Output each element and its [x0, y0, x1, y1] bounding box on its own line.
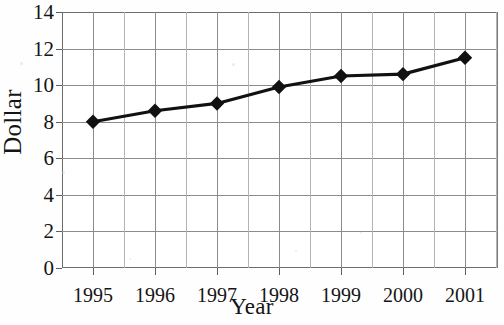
x-tick-mark	[403, 268, 404, 275]
y-tick-label: 10	[33, 73, 54, 98]
data-point-marker	[396, 67, 410, 81]
x-tick-mark	[217, 268, 218, 275]
data-series-line	[62, 12, 498, 268]
x-tick-mark	[279, 268, 280, 275]
scan-artifact	[129, 258, 131, 260]
chart-figure: Dollar 02468101214 199519961997199819992…	[0, 0, 504, 325]
y-tick-label: 14	[33, 0, 54, 25]
y-tick-label: 12	[33, 36, 54, 61]
scan-artifact	[295, 250, 297, 252]
data-point-marker	[210, 96, 224, 110]
plot-area: 02468101214 1995199619971998199920002001	[62, 12, 498, 268]
y-tick-mark	[56, 268, 62, 269]
y-axis-title: Dollar	[0, 72, 27, 172]
x-axis-title: Year	[0, 294, 504, 320]
data-point-marker	[334, 69, 348, 83]
y-tick-label: 8	[44, 109, 55, 134]
scan-artifact	[20, 62, 23, 65]
y-tick-label: 4	[44, 182, 55, 207]
y-tick-label: 6	[44, 146, 55, 171]
x-tick-mark	[155, 268, 156, 275]
x-tick-mark	[465, 268, 466, 275]
data-point-marker	[148, 104, 162, 118]
y-tick-label: 0	[44, 256, 55, 281]
x-tick-mark	[341, 268, 342, 275]
scan-artifact	[360, 232, 362, 234]
data-point-marker	[272, 80, 286, 94]
data-point-marker	[86, 115, 100, 129]
data-point-marker	[458, 51, 472, 65]
scan-artifact	[232, 63, 235, 66]
y-tick-label: 2	[44, 219, 55, 244]
x-tick-mark	[93, 268, 94, 275]
scan-artifact	[62, 171, 65, 174]
